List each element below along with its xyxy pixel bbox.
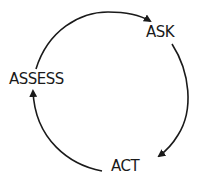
node-act-label: ACT xyxy=(111,159,139,174)
arrow-ask-to-act xyxy=(159,44,188,156)
cycle-diagram: ASK ACT ASSESS xyxy=(0,0,201,185)
node-assess-label: ASSESS xyxy=(9,72,64,87)
arrow-assess-to-ask xyxy=(36,12,150,69)
arrow-act-to-assess xyxy=(33,91,102,171)
node-ask-label: ASK xyxy=(146,25,174,40)
